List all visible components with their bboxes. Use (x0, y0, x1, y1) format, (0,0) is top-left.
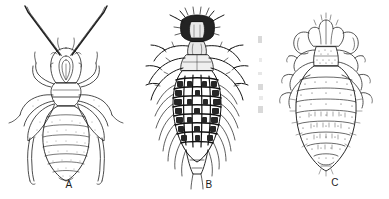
scan-artifact (258, 106, 263, 113)
figure-c-drawing (259, 0, 389, 199)
head (294, 13, 359, 54)
figure-a-drawing (0, 0, 130, 199)
figure-a-caption: A (54, 179, 84, 190)
antenna-left (25, 6, 62, 56)
abdomen-stipple (299, 81, 352, 158)
thorax (51, 83, 81, 106)
scan-artifact (259, 58, 262, 62)
illustration-plate: A B C (0, 0, 389, 199)
head (170, 7, 224, 42)
figure-a (0, 0, 130, 199)
figure-b-caption: B (194, 179, 224, 190)
leg-mid-right (78, 95, 123, 126)
figure-b-drawing (130, 0, 260, 199)
abdomen (43, 106, 89, 181)
abdomen (173, 71, 221, 174)
thorax (181, 42, 214, 71)
scan-artifact (258, 84, 263, 90)
scan-artifact (259, 96, 263, 100)
antenna-right (71, 6, 108, 56)
figure-c-caption: C (320, 177, 350, 188)
leg-mid-left (9, 95, 54, 126)
head (51, 38, 82, 83)
thorax-stipple (317, 50, 336, 64)
scan-artifact (258, 72, 262, 75)
scan-artifact (258, 36, 262, 43)
figure-b (130, 0, 260, 199)
figure-c (259, 0, 389, 199)
